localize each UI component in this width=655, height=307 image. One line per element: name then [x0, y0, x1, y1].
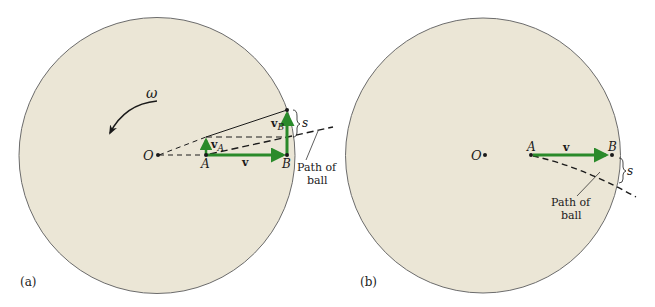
label-v: v [562, 141, 570, 154]
path-label-line1: Path of [551, 196, 591, 209]
panel-b: O A B v s Path of ball (b) [346, 18, 637, 293]
label-B: B [607, 140, 617, 154]
caption-a: (a) [20, 275, 37, 289]
label-O: O [471, 148, 482, 163]
point-O-dot [156, 153, 160, 157]
label-v: v [241, 156, 249, 169]
path-label-line2: ball [307, 174, 328, 187]
point-O-dot [483, 153, 487, 157]
label-s: s [302, 116, 308, 130]
label-O: O [143, 148, 154, 163]
figure: ω O A B v vA vB s [0, 0, 655, 307]
panel-a: ω O A B v vA vB s [19, 18, 337, 294]
caption-b: (b) [360, 275, 377, 289]
label-s: s [627, 164, 633, 178]
path-label-line1: Path of [297, 161, 337, 174]
omega-label: ω [146, 85, 158, 101]
path-label-line2: ball [561, 209, 582, 222]
s-brace [293, 110, 300, 137]
label-A: A [200, 157, 210, 171]
label-B: B [281, 157, 291, 171]
path-label-leader [306, 131, 318, 160]
label-A: A [526, 140, 536, 154]
point-Bprime-dot [285, 108, 289, 112]
